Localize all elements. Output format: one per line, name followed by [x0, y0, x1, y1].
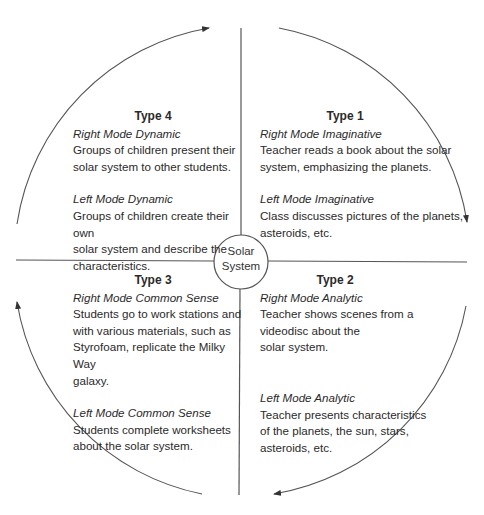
- quadrant-type1: Type 1 Right Mode Imaginative Teacher re…: [260, 108, 470, 241]
- quadrant-type4: Type 4 Right Mode Dynamic Groups of chil…: [73, 108, 243, 274]
- left-mode-text: Groups of children create their own sola…: [73, 208, 243, 274]
- quadrant-type2: Type 2 Right Mode Analytic Teacher shows…: [260, 272, 460, 456]
- right-mode-text: Students go to work stations and with va…: [73, 306, 243, 389]
- spacer: [260, 356, 460, 390]
- right-mode-text: Teacher shows scenes from a videodisc ab…: [260, 306, 460, 356]
- quadrant-title: Type 2: [260, 272, 410, 289]
- right-mode-text: Groups of children present their solar s…: [73, 142, 243, 175]
- spacer: [260, 175, 470, 191]
- quadrant-type3: Type 3 Right Mode Common Sense Students …: [73, 272, 243, 455]
- right-mode-text: Teacher reads a book about the solar sys…: [260, 142, 470, 175]
- quadrant-title: Type 1: [260, 108, 430, 125]
- horizontal-divider-right: [268, 261, 467, 262]
- left-mode-label: Left Mode Imaginative: [260, 191, 470, 208]
- left-mode-text: Students complete worksheets about the s…: [73, 422, 243, 455]
- left-mode-label: Left Mode Analytic: [260, 390, 460, 407]
- left-mode-text: Teacher presents characteristics of the …: [260, 407, 460, 457]
- quadrant-title: Type 4: [73, 108, 243, 125]
- quadrant-title: Type 3: [73, 272, 243, 289]
- left-mode-label: Left Mode Common Sense: [73, 405, 243, 422]
- right-mode-label: Right Mode Dynamic: [73, 126, 243, 143]
- right-mode-label: Right Mode Common Sense: [73, 290, 243, 307]
- right-mode-label: Right Mode Imaginative: [260, 126, 470, 143]
- right-mode-label: Right Mode Analytic: [260, 290, 460, 307]
- spacer: [73, 389, 243, 405]
- spacer: [73, 175, 243, 191]
- left-mode-label: Left Mode Dynamic: [73, 191, 243, 208]
- left-mode-text: Class discusses pictures of the planets,…: [260, 208, 470, 241]
